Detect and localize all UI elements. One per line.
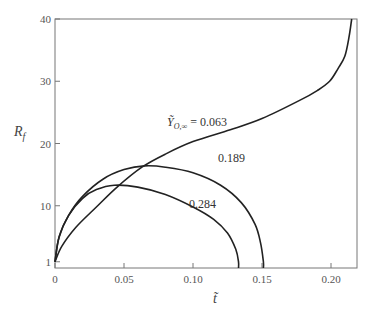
x-tick-label: 0.05 [114,273,134,285]
data-curves [55,19,352,268]
curve-0.063 [55,19,352,262]
x-axis-title: t̃ [213,291,219,306]
x-tick-label: 0 [52,273,58,285]
plot-frame [55,19,357,268]
curve-label-189: 0.189 [218,151,245,165]
y-tick-label: 40 [40,13,52,25]
curve-label-063: ỸO,∞= 0.063 [167,115,227,131]
x-tick-label: 0.10 [183,273,203,285]
x-tick-label: 0.15 [252,273,272,285]
y-axis-ticks: 110203040 [40,13,60,268]
y-tick-label: 1 [46,256,52,268]
curve-label-284: 0.284 [189,197,216,211]
y-axis-title: Rf [13,124,27,142]
y-tick-label: 30 [40,75,52,87]
x-tick-label: 0.20 [321,273,341,285]
y-tick-label: 10 [40,200,52,212]
y-tick-label: 20 [40,138,52,150]
chart: 110203040 00.050.100.150.20 ỸO,∞= 0.063 … [0,0,372,321]
x-axis-ticks: 00.050.100.150.20 [52,263,341,285]
